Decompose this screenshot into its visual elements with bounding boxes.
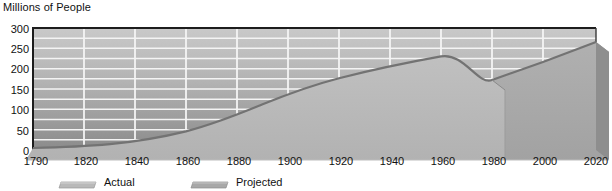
x-tick-label: 1860 [176,155,200,167]
projected-right-side-face [596,42,609,160]
x-tick-label: 1840 [125,155,149,167]
x-tick-label: 1980 [482,155,506,167]
x-tick-label: 1790 [24,155,48,167]
legend-item-actual[interactable]: Actual [58,173,135,191]
legend-swatch-actual [58,177,98,188]
x-axis: 1790 1820 1840 1860 1880 1900 1920 1940 … [0,155,612,171]
x-tick-label: 1940 [380,155,404,167]
plot-area [0,0,612,172]
x-tick-label: 1880 [227,155,251,167]
population-area-chart: Millions of People 300 250 200 150 100 5… [0,0,612,191]
legend-item-projected[interactable]: Projected [190,173,282,191]
legend-label-projected: Projected [236,176,282,188]
x-tick-label: 1900 [278,155,302,167]
legend-label-actual: Actual [104,176,135,188]
chart-legend: Actual Projected [58,173,388,191]
x-tick-label: 2020 [584,155,608,167]
x-tick-label: 1820 [74,155,98,167]
legend-swatch-projected [190,177,230,188]
x-tick-label: 1960 [431,155,455,167]
x-tick-label: 2000 [533,155,557,167]
x-tick-label: 1920 [329,155,353,167]
